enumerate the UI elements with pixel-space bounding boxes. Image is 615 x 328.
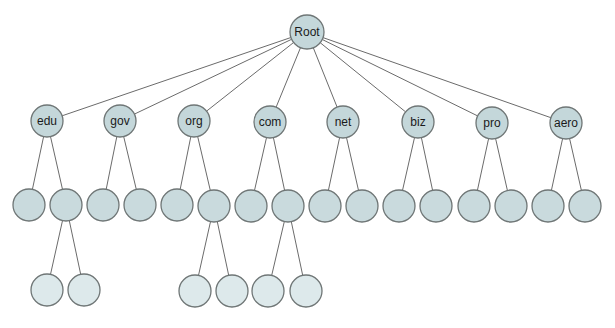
node-circle	[569, 190, 601, 222]
tree-node-pro-1	[458, 190, 490, 222]
node-circle	[87, 189, 119, 221]
tree-node-biz-1	[383, 190, 415, 222]
tree-node-edu-1	[13, 189, 45, 221]
tree-node-com-1	[235, 190, 267, 222]
tree-edge	[51, 221, 63, 275]
node-label: pro	[483, 116, 501, 130]
node-circle	[235, 190, 267, 222]
node-circle	[216, 275, 248, 307]
tree-edge	[276, 48, 300, 107]
tree-nodes: Rootedugovorgcomnetbizproaero	[13, 15, 601, 307]
node-circle	[383, 190, 415, 222]
tree-edge	[180, 137, 191, 190]
tree-edge	[272, 222, 285, 276]
node-circle	[309, 190, 341, 222]
tree-node-aero-1	[532, 190, 564, 222]
node-label: org	[185, 114, 202, 128]
tree-edge	[198, 137, 211, 191]
node-circle	[495, 190, 527, 222]
tree-node-org-1	[161, 189, 193, 221]
node-circle	[532, 190, 564, 222]
tree-node-aero: aero	[550, 107, 582, 139]
tree-edge	[273, 138, 284, 191]
tree-diagram: Rootedugovorgcomnetbizproaero	[0, 0, 615, 328]
node-circle	[272, 190, 304, 222]
node-label: net	[335, 115, 352, 129]
tree-node-aero-2	[569, 190, 601, 222]
node-circle	[458, 190, 490, 222]
tree-edge	[62, 38, 291, 116]
tree-edge	[291, 222, 302, 276]
tree-edge	[69, 221, 80, 275]
node-label: edu	[37, 114, 57, 128]
tree-node-org: org	[178, 105, 210, 137]
tree-node-gov-1	[87, 189, 119, 221]
node-circle	[252, 275, 284, 307]
tree-edge	[347, 138, 359, 191]
tree-node-net: net	[327, 106, 359, 138]
tree-edge	[313, 48, 337, 107]
tree-edges	[32, 38, 581, 276]
tree-edge	[255, 138, 267, 191]
node-circle	[420, 190, 452, 222]
tree-node-edu-2-1	[31, 274, 63, 306]
tree-edge	[477, 139, 488, 191]
tree-edge	[551, 139, 562, 191]
tree-edge	[134, 39, 291, 114]
tree-node-pro: pro	[476, 107, 508, 139]
tree-node-com: com	[254, 106, 286, 138]
node-label: Root	[294, 25, 320, 39]
tree-edge	[403, 138, 415, 191]
node-circle	[13, 189, 45, 221]
tree-edge	[421, 138, 432, 191]
tree-node-gov: gov	[104, 105, 136, 137]
tree-edge	[106, 137, 117, 190]
tree-edge	[51, 137, 63, 190]
tree-edge	[124, 137, 137, 190]
tree-edge	[217, 222, 228, 276]
tree-edge	[32, 137, 43, 190]
tree-node-com-2-2	[290, 275, 322, 307]
tree-node-edu-2	[50, 189, 82, 221]
node-label: aero	[554, 116, 578, 130]
tree-edge	[322, 40, 477, 116]
tree-node-biz: biz	[402, 106, 434, 138]
tree-node-com-2	[272, 190, 304, 222]
node-circle	[346, 190, 378, 222]
tree-node-org-2-2	[216, 275, 248, 307]
tree-canvas: Rootedugovorgcomnetbizproaero	[0, 0, 615, 328]
node-circle	[179, 275, 211, 307]
tree-edge	[320, 43, 405, 112]
tree-edge	[328, 138, 339, 191]
tree-node-gov-2	[124, 189, 156, 221]
node-circle	[124, 189, 156, 221]
tree-edge	[570, 139, 582, 191]
tree-node-edu: edu	[31, 105, 63, 137]
node-circle	[31, 274, 63, 306]
node-label: biz	[410, 115, 425, 129]
node-circle	[68, 274, 100, 306]
node-label: com	[259, 115, 282, 129]
tree-node-org-2	[198, 190, 230, 222]
tree-node-root: Root	[290, 15, 324, 49]
node-circle	[290, 275, 322, 307]
tree-node-net-2	[346, 190, 378, 222]
node-circle	[50, 189, 82, 221]
tree-edge	[323, 38, 551, 118]
tree-node-com-2-1	[252, 275, 284, 307]
node-label: gov	[110, 114, 129, 128]
tree-edge	[199, 222, 211, 276]
tree-node-net-1	[309, 190, 341, 222]
node-circle	[198, 190, 230, 222]
tree-edge	[496, 139, 508, 191]
node-circle	[161, 189, 193, 221]
tree-node-pro-2	[495, 190, 527, 222]
tree-node-org-2-1	[179, 275, 211, 307]
tree-edge	[207, 43, 294, 112]
tree-node-edu-2-2	[68, 274, 100, 306]
tree-node-biz-2	[420, 190, 452, 222]
